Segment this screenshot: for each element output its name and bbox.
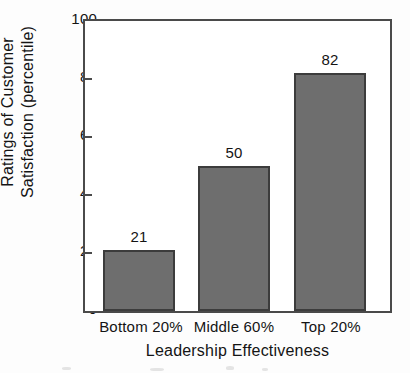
bar-top-20 — [294, 73, 366, 311]
bar-value-top-20: 82 — [294, 52, 366, 68]
x-tick-label-top-20: Top 20% — [288, 318, 374, 335]
x-tick-label-middle-60: Middle 60% — [188, 318, 280, 335]
y-tick-80 — [85, 78, 92, 80]
x-axis-title: Leadership Effectiveness — [83, 341, 392, 360]
bar-middle-60 — [198, 166, 270, 311]
bar-bottom-20 — [103, 250, 175, 311]
y-tick-40 — [85, 194, 92, 196]
plot-area: 21 50 82 — [83, 19, 392, 313]
scan-artifact — [150, 368, 164, 371]
bar-value-bottom-20: 21 — [103, 229, 175, 245]
scan-artifact — [262, 368, 268, 371]
scan-artifact — [226, 366, 234, 370]
y-axis-title: Ratings of Customer Satisfaction (percen… — [0, 0, 38, 262]
bar-value-middle-60: 50 — [198, 145, 270, 161]
y-axis-title-line-1: Ratings of Customer — [0, 0, 18, 262]
scan-artifact — [62, 367, 71, 370]
y-tick-60 — [85, 136, 92, 138]
x-tick-label-bottom-20: Bottom 20% — [96, 318, 186, 335]
chart-screenshot: Ratings of Customer Satisfaction (percen… — [0, 0, 410, 373]
y-tick-20 — [85, 252, 92, 254]
y-axis-title-line-2: Satisfaction (percentile) — [18, 0, 38, 262]
